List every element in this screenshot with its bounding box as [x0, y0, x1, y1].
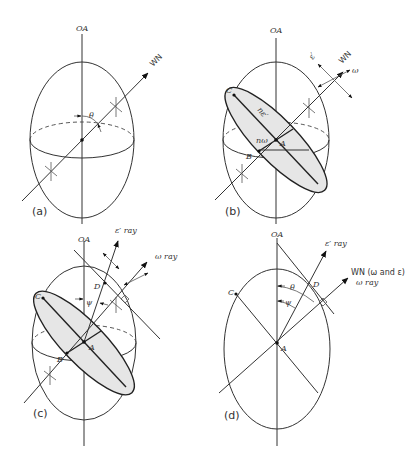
omega-vibration-arrow [318, 70, 350, 87]
theta-arc [277, 286, 314, 302]
epsilon-label: ε′ [307, 51, 318, 61]
point-a [275, 341, 279, 345]
tick-mark-upper [110, 97, 122, 117]
psi-label: ψ [285, 298, 292, 307]
point-a [82, 340, 86, 344]
tick-mark-lower [45, 162, 57, 181]
tick-mark-upper [110, 297, 122, 313]
omega-ray-label: ω ray [155, 252, 178, 261]
epsilon-ray-label: ε′ ray [325, 239, 347, 248]
point-c-label: C [35, 292, 41, 301]
point-c [41, 296, 44, 299]
panel-b: OA WN ε′ ω C B A nε′ nω (b) [212, 26, 359, 224]
psi-arrow-right [100, 303, 108, 305]
n-omega-label: nω [256, 136, 268, 145]
optic-axis-label: OA [271, 230, 284, 239]
epsilon-ray-label: ε′ ray [115, 226, 137, 235]
epsilon-ray-arrow [84, 241, 118, 342]
panel-c: OA ε′ ray ω ray C D A B ψ (c) [21, 226, 178, 446]
optic-axis-label: OA [78, 235, 91, 244]
point-c [234, 292, 237, 295]
omega-label: ω [352, 66, 359, 75]
point-d-label: D [312, 280, 320, 289]
wave-normal-arrow [219, 278, 348, 393]
center-point [274, 138, 278, 142]
point-d [103, 281, 106, 284]
point-b [65, 351, 68, 354]
optic-axis-label: OA [270, 26, 283, 35]
tick-mark-lower [236, 164, 248, 183]
optic-axis-label: OA [76, 24, 89, 33]
panel-label-d: (d) [224, 409, 240, 422]
omega-ray-label: ω ray [356, 278, 379, 287]
panel-d: OA ε′ ray WN (ω and ε) ω ray C D A θ ψ (… [219, 230, 405, 446]
panel-a: θ OA WN (a) [22, 24, 164, 224]
psi-label: ψ [86, 298, 93, 307]
panel-label-b: (b) [225, 205, 241, 218]
point-a-label: A [280, 344, 287, 353]
point-d-label: D [93, 282, 101, 291]
center-point [80, 138, 84, 142]
point-a-label: A [279, 139, 286, 148]
theta-arrow-right [98, 124, 101, 132]
panel-label-c: (c) [33, 407, 48, 420]
wave-normal-label: WN [337, 49, 353, 65]
indicatrix-diagram: θ OA WN (a) OA WN ε′ ω C B A nε′ [0, 0, 418, 451]
epsilon-vibration-arrow [318, 64, 352, 98]
epsilon-ray-arrow [277, 251, 326, 343]
epsilon-vibration-arrow [103, 253, 119, 269]
wave-normal-label: WN (ω and ε) [351, 268, 405, 277]
point-c-label: C [226, 86, 232, 95]
point-b-label: B [56, 355, 63, 364]
theta-label: θ [89, 111, 94, 120]
point-b-label: B [245, 152, 252, 161]
tick-mark-upper [303, 98, 315, 118]
wave-normal-label: WN [148, 52, 164, 68]
point-b [257, 149, 260, 152]
panel-label-a: (a) [32, 205, 47, 218]
point-a-label: A [88, 343, 95, 352]
point-c [232, 93, 235, 96]
theta-label: θ [290, 283, 295, 292]
point-c-label: C [228, 288, 234, 297]
